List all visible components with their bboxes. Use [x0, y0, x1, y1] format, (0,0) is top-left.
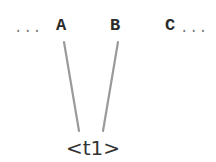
edge-b-to-t1 [103, 42, 118, 131]
diagram-canvas: ... A B C ... <t1> [0, 0, 216, 162]
edge-a-to-t1 [64, 42, 79, 131]
group-label-t1: <t1> [66, 138, 120, 158]
